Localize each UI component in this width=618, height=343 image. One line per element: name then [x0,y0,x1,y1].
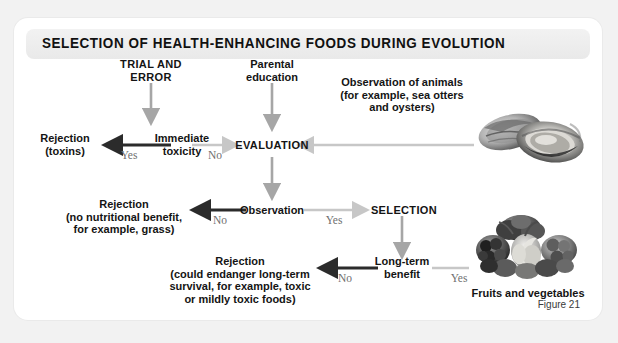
edge-label-toxicity-no: No [200,149,230,161]
node-rejection-no-benefit: Rejection (no nutritional benefit, for e… [54,198,194,236]
figure-caption: Figure 21 [538,299,580,310]
node-rejection-endanger: Rejection (could endanger long-term surv… [160,255,320,305]
node-rejection-toxins: Rejection (toxins) [28,132,102,157]
node-observation-of-animals: Observation of animals (for example, sea… [326,76,478,114]
node-long-term-benefit: Long-term benefit [363,255,441,280]
node-evaluation: EVALUATION [230,139,314,152]
node-selection: SELECTION [366,204,442,217]
edge-label-benefit-no: No [330,272,360,284]
node-trial-and-error: TRIAL AND ERROR [111,58,191,83]
oysters-photo [474,102,592,170]
node-observation: Observation [233,204,311,217]
edge-label-observation-no: No [205,214,235,226]
figure-page: SELECTION OF HEALTH-ENHANCING FOODS DURI… [0,0,618,343]
figure-card: SELECTION OF HEALTH-ENHANCING FOODS DURI… [14,18,602,320]
edge-label-benefit-yes: Yes [444,272,474,284]
node-parental-education: Parental education [232,58,312,83]
fruits-and-vegetables-photo [469,206,585,284]
edge-label-observation-yes: Yes [319,214,349,226]
edge-label-toxicity-yes: Yes [114,149,144,161]
node-fruits-and-vegetables: Fruits and vegetables [466,287,590,300]
